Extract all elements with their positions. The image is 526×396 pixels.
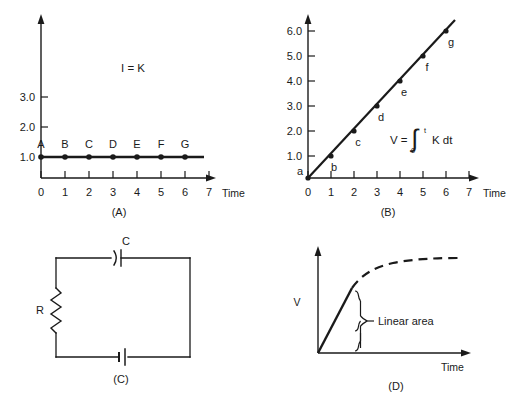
linear-area-annotation: Linear area [378,315,435,327]
panel-d-linear-segment [318,288,352,353]
figure-container: 1.0 2.0 3.0 0 1 2 3 4 5 6 7 Time [0,0,526,396]
panel-a-y-tick-label-2: 2.0 [20,121,35,133]
panel-b-x-tick-label-5: 5 [420,186,426,198]
panel-b-x-axis-title: Time [483,187,506,199]
panel-b-y-tick-label-4: 4.0 [287,75,302,87]
panel-a-x-tick-label-0: 0 [38,186,44,198]
panel-b-x-tick-label-3: 3 [374,186,380,198]
resistor-zigzag [51,288,61,333]
panel-b-x-tick-label-6: 6 [443,186,449,198]
panel-b-point-label-g: g [448,36,454,48]
panel-c-label: (C) [113,373,128,385]
panel-b-x-tick-label-1: 1 [328,186,334,198]
resistor-label: R [36,304,44,316]
panel-b-x-tick-label-0: 0 [305,186,311,198]
panel-a-x-ticks [41,171,209,178]
panel-d: Linear area V Time (D) [263,220,526,396]
panel-a-point-label-c: C [85,138,93,150]
panel-a-y-axis-arrow [38,14,45,24]
panel-b-x-tick-label-2: 2 [351,186,357,198]
panel-a-x-axis-title: Time [222,187,245,199]
linear-area-brace [355,291,374,351]
panel-d-label: (D) [388,380,403,392]
panel-a-point-label-g: G [181,138,190,150]
panel-b-y-axis-arrow [305,14,312,24]
panel-a-point-label-e: E [133,138,140,150]
panel-a-x-tick-label-6: 6 [182,186,188,198]
capacitor-label: C [122,235,130,247]
panel-b-label: (B) [381,206,396,218]
panel-b-y-tick-label-6: 6.0 [287,25,302,37]
panel-d-saturation-curve [352,258,459,288]
panel-b-point-label-c: c [355,136,361,148]
panel-a-equation: I = K [121,62,145,74]
panel-b-equation-lower-limit: 0 [411,146,415,155]
panel-b-x-tick-label-7: 7 [466,186,472,198]
panel-a-point-label-b: B [61,138,68,150]
panel-b-point-label-b: b [331,161,337,173]
panel-b-point-label-f: f [425,61,429,73]
panel-b-equation: V = ∫ t 0 K dt [390,124,453,155]
panel-a-x-tick-label-7: 7 [206,186,212,198]
panel-d-y-axis-title: V [293,296,300,308]
panel-b-y-tick-label-3: 3.0 [287,100,302,112]
panel-b-equation-upper-limit: t [424,126,427,135]
panel-b-x-axis-arrow [469,175,479,182]
panel-d-x-axis-title: Time [441,361,464,373]
panel-b-equation-rhs: K dt [432,134,453,146]
panel-a-label: (A) [112,206,127,218]
panel-a-x-tick-label-3: 3 [110,186,116,198]
panel-b-point-label-e: e [401,86,407,98]
panel-b-equation-lhs: V = [390,134,408,146]
panel-a-x-tick-label-5: 5 [158,186,164,198]
panel-a-y-tick-label-3: 3.0 [20,91,35,103]
panel-b-y-tick-label-1: 1.0 [287,150,302,162]
panel-b: 1.0 2.0 3.0 4.0 5.0 6.0 0 1 2 3 4 5 [263,0,526,220]
panel-b-y-tick-label-5: 5.0 [287,50,302,62]
panel-a-y-tick-label-1: 1.0 [20,151,35,163]
panel-c: R C (C) [0,220,263,396]
panel-a-x-axis-arrow [206,175,216,182]
panel-b-x-tick-label-4: 4 [397,186,403,198]
panel-b-y-ticks [308,31,315,156]
panel-b-y-tick-label-2: 2.0 [287,125,302,137]
panel-a-point-label-f: F [158,138,165,150]
panel-d-y-axis-arrow [315,246,322,256]
panel-d-x-axis-arrow [461,350,471,357]
panel-a: 1.0 2.0 3.0 0 1 2 3 4 5 6 7 Time [0,0,263,220]
capacitor-plate-curved [114,251,116,265]
panel-a-x-tick-label-4: 4 [134,186,140,198]
panel-a-x-tick-label-1: 1 [62,186,68,198]
panel-a-point-label-a: A [37,138,45,150]
panel-a-point-label-d: D [109,138,117,150]
panel-b-point-label-d: d [378,111,384,123]
panel-b-point-label-a: a [297,165,304,177]
panel-a-x-tick-label-2: 2 [86,186,92,198]
